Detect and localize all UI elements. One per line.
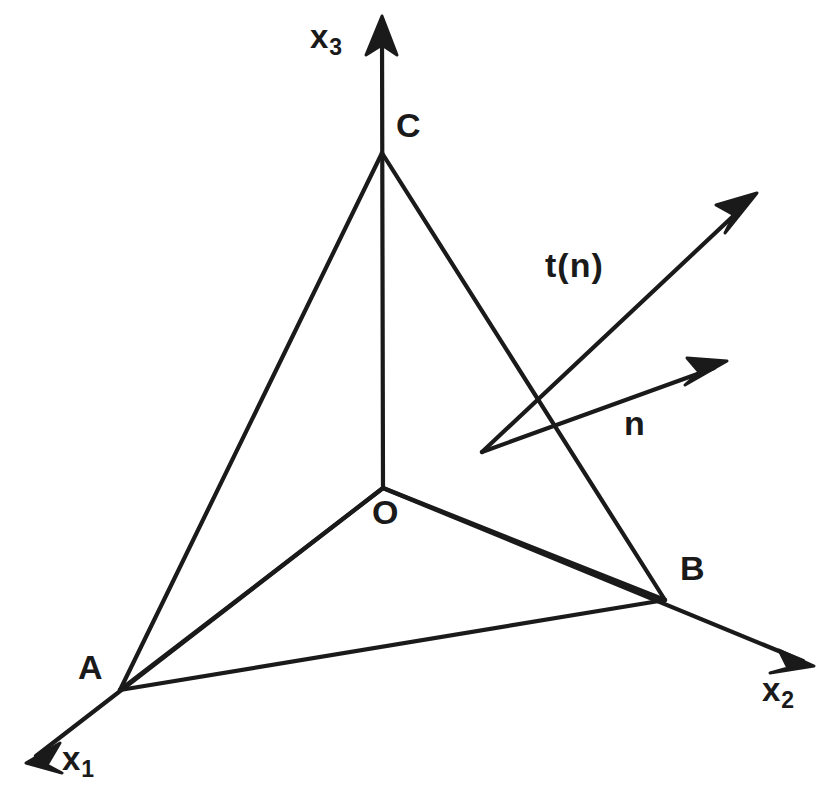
vector-label-traction: t(n) — [545, 248, 604, 282]
axis-label-x3-subscript: 3 — [329, 34, 342, 60]
axis-label-x2-text: x — [762, 671, 780, 708]
edge-OA — [120, 488, 383, 690]
origin-label: O — [372, 495, 399, 529]
axis-label-x2: x2 — [762, 673, 793, 706]
vector-label-normal: n — [624, 406, 646, 440]
axis-label-x2-subscript: 2 — [781, 687, 794, 713]
axis-arrowhead-x2 — [770, 650, 814, 673]
vector-line-traction — [482, 205, 745, 452]
axis-line-x3 — [382, 28, 383, 488]
figure-canvas: x3 C t(n) n O B A x2 x1 — [0, 0, 834, 806]
vector-line-normal — [482, 368, 714, 452]
edge-AB — [120, 600, 665, 690]
vertex-label-b: B — [680, 551, 705, 585]
edge-OB — [383, 488, 665, 600]
axis-label-x1: x1 — [62, 742, 93, 775]
vector-arrowhead-normal — [685, 358, 727, 385]
axis-label-x1-text: x — [62, 740, 80, 777]
vertex-label-a: A — [78, 650, 103, 684]
axis-label-x1-subscript: 1 — [81, 756, 94, 782]
vertex-label-c: C — [396, 108, 421, 142]
edge-CB — [382, 153, 665, 600]
axis-label-x3-text: x — [310, 18, 328, 55]
edge-AC — [120, 153, 382, 690]
axis-label-x3: x3 — [310, 20, 341, 53]
